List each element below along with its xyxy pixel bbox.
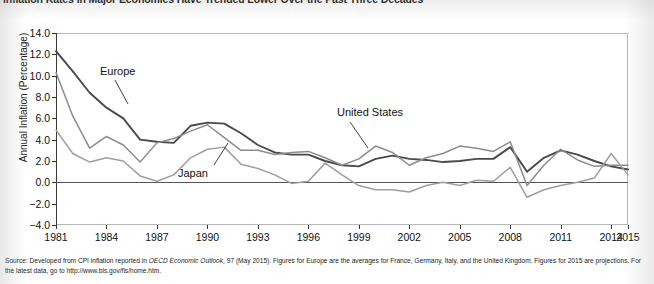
leader-line-japan (214, 143, 228, 165)
source-note: Source: Developed from CPI inflation rep… (5, 256, 645, 275)
series-label-europe: Europe (100, 65, 135, 77)
page-title: Inflation Rates in Major Economies Have … (3, 0, 523, 5)
source-lead: Source: Developed from CPI inflation rep… (5, 257, 149, 264)
leader-line-united-states (350, 122, 368, 148)
chart-figure: Annual Inflation (Percentage) 14.012.010… (0, 12, 654, 250)
series-lines (0, 12, 654, 250)
series-label-japan: Japan (178, 167, 208, 179)
leader-line-europe (115, 80, 128, 104)
source-italic-title: OECD Economic Outlook (149, 257, 223, 264)
series-label-united-states: United States (337, 106, 403, 118)
series-line-united-states (56, 72, 628, 185)
